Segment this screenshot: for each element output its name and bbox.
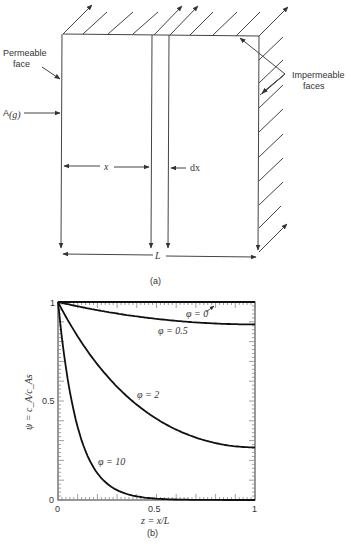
impermeable-label-2: faces — [303, 81, 325, 91]
L-label: L — [154, 250, 161, 261]
figure: Permeable face Impermeable faces A(g) x … — [0, 0, 351, 544]
strip-right-edge — [168, 35, 169, 248]
y-axis-label: ψ = c_A/c_As — [23, 374, 34, 430]
top-impermeable-face — [63, 34, 259, 36]
label-phi-0: φ = 0 — [186, 308, 208, 319]
right-impermeable-face — [258, 36, 259, 250]
x-axis-label: z = x/L — [140, 515, 170, 526]
label-phi-10: φ = 10 — [98, 456, 125, 467]
permeable-label-2: face — [13, 59, 30, 69]
ytick-1: 1 — [50, 298, 55, 308]
xtick-0: 0 — [55, 504, 60, 514]
caption-b: (b) — [147, 528, 158, 538]
permeable-face — [61, 34, 62, 248]
ytick-0: 0 — [49, 495, 54, 505]
xtick-1: 1 — [252, 504, 257, 514]
ytick-0-5: 0.5 — [42, 396, 55, 406]
label-phi-2: φ = 2 — [137, 389, 159, 400]
xtick-0-5: 0.5 — [148, 504, 161, 514]
slab-diagram — [24, 5, 288, 257]
x-label: x — [103, 161, 109, 172]
plot-frame — [58, 302, 255, 500]
strip-left-edge — [151, 35, 152, 248]
curves — [58, 302, 255, 500]
species-label: A(g) — [3, 108, 21, 121]
curve-10 — [58, 302, 255, 500]
label-phi-0-5: φ = 0.5 — [158, 325, 188, 336]
permeable-label: Permeable — [3, 48, 47, 58]
dx-label: dx — [190, 162, 200, 173]
caption-a: (a) — [150, 276, 161, 286]
impermeable-label: Impermeable — [292, 70, 345, 80]
